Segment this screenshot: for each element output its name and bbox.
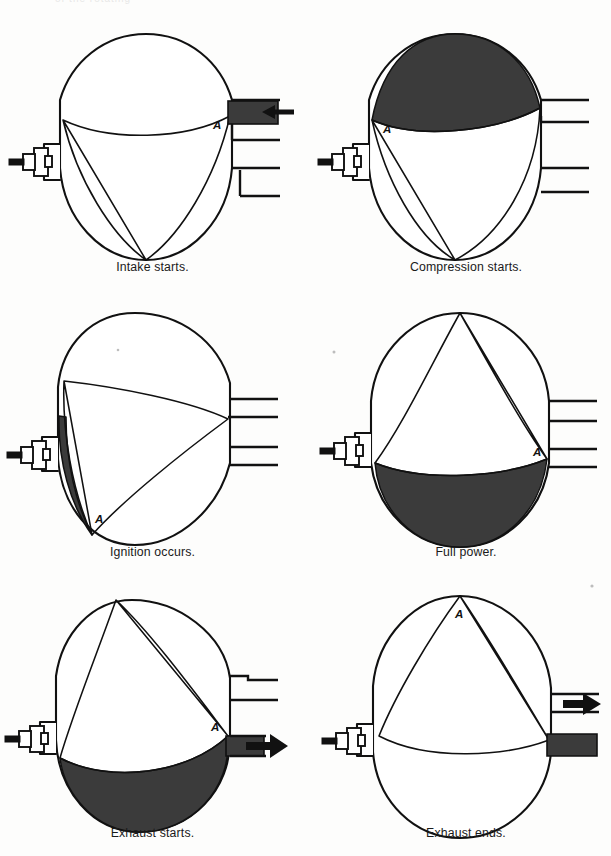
wankel-diagram-5: A <box>0 576 305 856</box>
wankel-diagram-1: A <box>0 8 305 291</box>
rotor-apex-label: A <box>382 123 391 135</box>
spark-plug <box>322 728 365 754</box>
diagram-page: of the rotating <box>0 0 611 856</box>
wankel-diagram-6: A <box>305 576 611 856</box>
panel-caption: Intake starts. <box>0 260 321 274</box>
spark-plug <box>318 148 361 176</box>
compression-chamber-fill <box>372 34 540 131</box>
paper-speck <box>590 584 593 587</box>
spark-plug <box>5 726 48 752</box>
panel-full-power[interactable]: A Full power. <box>305 291 611 576</box>
panel-ignition-occurs[interactable]: A Ignition occurs. <box>0 291 305 576</box>
panel-caption: Full power. <box>305 545 611 559</box>
panel-compression-starts[interactable]: A Compression starts. <box>305 8 611 291</box>
panel-caption: Compression starts. <box>305 260 611 274</box>
panel-caption: Exhaust ends. <box>305 826 611 840</box>
spark-plug <box>320 437 363 465</box>
epitrochoid-housing <box>373 596 551 838</box>
wankel-diagram-3: A <box>0 291 305 576</box>
intake-port-upper-wall <box>230 676 278 680</box>
rotor-apex-label: A <box>210 721 219 733</box>
panel-exhaust-ends[interactable]: A Exhaust ends. <box>305 576 611 856</box>
panel-grid: A Intake starts. <box>0 8 611 856</box>
panel-intake-starts[interactable]: A Intake starts. <box>0 8 305 291</box>
rotor-apex-label: A <box>532 446 541 458</box>
intake-port-lower-wall <box>541 116 589 122</box>
rotor-apex-label: A <box>94 513 103 525</box>
wankel-diagram-2: A <box>305 8 611 291</box>
spark-plug <box>7 441 50 469</box>
rotor-apex-label: A <box>454 608 463 620</box>
paper-speck <box>117 349 120 352</box>
panel-exhaust-starts[interactable]: A Exhaust starts. <box>0 576 305 856</box>
panel-caption: Ignition occurs. <box>0 545 321 559</box>
rotor-apex-label: A <box>212 119 221 131</box>
exhaust-port-gas-fill <box>547 734 597 756</box>
epitrochoid-housing <box>60 34 232 260</box>
wankel-diagram-4: A <box>305 291 611 576</box>
spark-plug <box>9 148 52 176</box>
panel-caption: Exhaust starts. <box>0 826 321 840</box>
paper-speck <box>333 351 336 354</box>
epitrochoid-housing <box>58 313 230 545</box>
